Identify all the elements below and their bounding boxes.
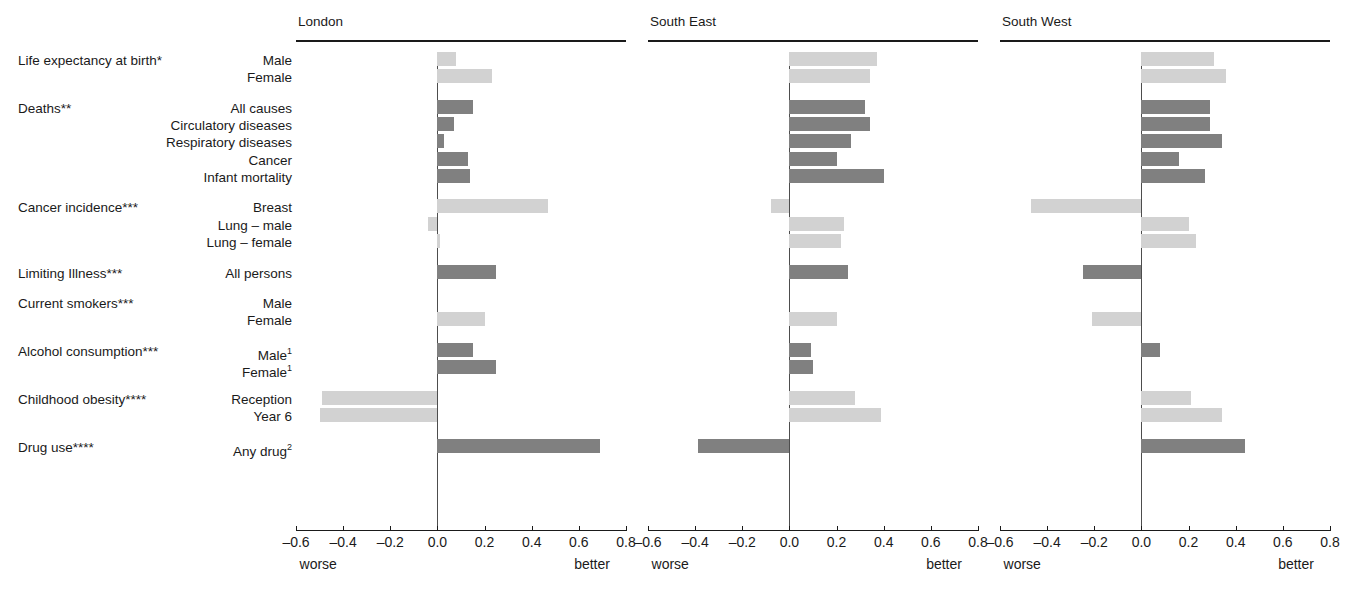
x-axis-tick	[626, 526, 627, 531]
axis-label-worse: worse	[300, 556, 337, 572]
row-label: Any drug2	[32, 440, 292, 459]
x-axis-tick-label: 0.2	[1166, 534, 1212, 550]
bar	[437, 152, 468, 166]
panel-title: South West	[1002, 14, 1072, 30]
x-axis-tick	[343, 526, 344, 531]
bar	[1141, 134, 1221, 148]
bar	[1141, 169, 1205, 183]
x-axis-tick-label: 0.6	[908, 534, 954, 550]
bar	[437, 439, 600, 453]
panel-south-west: South West–0.6–0.4–0.20.00.20.40.60.8wor…	[1000, 0, 1330, 604]
x-axis-tick	[931, 526, 932, 531]
x-axis-tick-label: –0.6	[977, 534, 1023, 550]
x-axis-tick-label: 0.4	[509, 534, 555, 550]
bar	[789, 343, 810, 357]
panel-title-rule	[648, 40, 978, 42]
x-axis-tick	[437, 526, 438, 531]
bar	[789, 265, 848, 279]
bar	[437, 343, 472, 357]
x-axis-tick-label: –0.2	[1071, 534, 1117, 550]
x-axis-tick-label: 0.4	[861, 534, 907, 550]
bar	[789, 360, 813, 374]
bar	[789, 134, 850, 148]
bar	[437, 199, 548, 213]
bar	[437, 52, 456, 66]
panel-title-rule	[296, 40, 626, 42]
x-axis-tick	[296, 526, 297, 531]
x-axis-tick-label: 0.4	[1213, 534, 1259, 550]
x-axis-tick	[837, 526, 838, 531]
bar	[320, 408, 438, 422]
bar	[789, 312, 836, 326]
x-axis-tick	[579, 526, 580, 531]
bar	[1092, 312, 1142, 326]
x-axis-tick	[695, 526, 696, 531]
x-axis-tick-label: –0.6	[273, 534, 319, 550]
axis-label-worse: worse	[652, 556, 689, 572]
panel-south-east: South East–0.6–0.4–0.20.00.20.40.60.8wor…	[648, 0, 978, 604]
x-axis-tick	[1000, 526, 1001, 531]
x-axis-tick	[1141, 526, 1142, 531]
row-label: Reception	[32, 392, 292, 407]
footnote-marker: 2	[287, 442, 292, 452]
x-axis-tick-label: 0.0	[1118, 534, 1164, 550]
footnote-marker: 1	[287, 346, 292, 356]
axis-label-better: better	[1278, 556, 1314, 572]
x-axis-tick	[1283, 526, 1284, 531]
row-label: Cancer	[32, 153, 292, 168]
bar	[1141, 439, 1245, 453]
x-axis-tick-label: –0.4	[1024, 534, 1070, 550]
row-label: Respiratory diseases	[32, 135, 292, 150]
row-label: Female	[32, 70, 292, 85]
x-axis-tick-label: –0.6	[625, 534, 671, 550]
x-axis-tick	[1236, 526, 1237, 531]
bar	[1141, 69, 1226, 83]
bar	[437, 265, 496, 279]
row-label: Circulatory diseases	[32, 118, 292, 133]
row-label: All causes	[32, 101, 292, 116]
row-label: Infant mortality	[32, 170, 292, 185]
footnote-marker: 1	[287, 363, 292, 373]
health-indicator-bar-chart: Life expectancy at birth*MaleFemaleDeath…	[0, 0, 1372, 604]
x-axis-tick	[1094, 526, 1095, 531]
row-label: Lung – male	[32, 218, 292, 233]
x-axis-tick-label: –0.4	[320, 534, 366, 550]
bar	[1141, 408, 1221, 422]
x-axis-tick	[789, 526, 790, 531]
x-axis-tick	[884, 526, 885, 531]
row-label: All persons	[32, 266, 292, 281]
bar	[789, 217, 843, 231]
panel-title: South East	[650, 14, 716, 30]
x-axis-tick-label: 0.6	[556, 534, 602, 550]
x-axis-line	[648, 530, 978, 531]
x-axis-tick	[978, 526, 979, 531]
panel-title: London	[298, 14, 343, 30]
x-axis-tick-label: 0.6	[1260, 534, 1306, 550]
bar	[428, 217, 437, 231]
x-axis-tick	[1047, 526, 1048, 531]
bar	[1031, 199, 1142, 213]
bar	[437, 134, 444, 148]
axis-label-better: better	[574, 556, 610, 572]
bar	[437, 69, 491, 83]
row-label: Year 6	[32, 409, 292, 424]
bar	[789, 408, 881, 422]
x-axis-tick-label: 0.8	[1307, 534, 1353, 550]
bar	[1141, 217, 1188, 231]
x-axis-tick	[1330, 526, 1331, 531]
x-axis-tick-label: 0.0	[414, 534, 460, 550]
x-axis-tick	[532, 526, 533, 531]
bar	[771, 199, 790, 213]
x-axis-tick-label: 0.2	[814, 534, 860, 550]
bar	[1141, 117, 1209, 131]
x-axis-tick-label: 0.0	[766, 534, 812, 550]
x-axis-line	[1000, 530, 1330, 531]
row-label-column: Life expectancy at birth*MaleFemaleDeath…	[0, 0, 300, 604]
bar	[437, 100, 472, 114]
x-axis-tick	[648, 526, 649, 531]
row-label: Male	[32, 53, 292, 68]
row-label: Lung – female	[32, 235, 292, 250]
bar	[437, 312, 484, 326]
x-axis-tick	[390, 526, 391, 531]
axis-label-worse: worse	[1004, 556, 1041, 572]
